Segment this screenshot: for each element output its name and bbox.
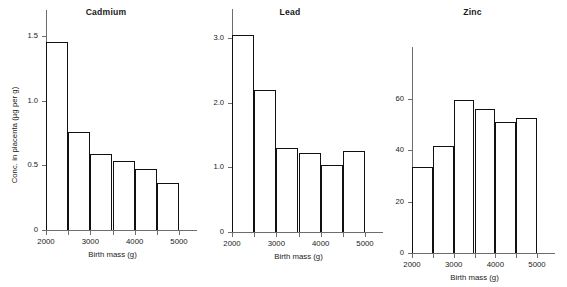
x-axis-tick [343, 233, 344, 237]
histogram-bar [433, 146, 454, 253]
y-axis-tick [408, 150, 412, 151]
x-axis-tick [475, 254, 476, 258]
y-axis-tick-label: 20 [370, 197, 404, 206]
x-axis-tick [516, 254, 517, 258]
x-axis-tick [537, 254, 538, 258]
x-axis-title: Birth mass (g) [392, 273, 557, 282]
x-axis-tick [157, 231, 158, 235]
panel-title-zinc: Zinc [378, 7, 567, 17]
x-axis-tick [254, 233, 255, 237]
histogram-bar [254, 90, 276, 232]
y-axis-tick-label: 60 [370, 94, 404, 103]
histogram-bar [157, 183, 179, 230]
x-axis-tick [365, 233, 366, 237]
x-axis-tick [68, 231, 69, 235]
histogram-bar [135, 169, 157, 230]
histogram-bar [454, 100, 475, 253]
histogram-bar [495, 122, 516, 253]
y-axis-tick [408, 99, 412, 100]
x-axis-title: Birth mass (g) [26, 250, 199, 259]
y-axis-tick-label: 2.0 [190, 98, 224, 107]
x-axis-tick [90, 231, 91, 235]
y-axis-tick-label: 0 [190, 227, 224, 236]
x-axis-tick [276, 233, 277, 237]
x-axis-tick [321, 233, 322, 237]
histogram-bar [68, 132, 90, 230]
x-axis-tick-label: 4000 [306, 239, 336, 248]
x-axis-tick-label: 5000 [522, 260, 552, 269]
x-axis-tick [113, 231, 114, 235]
x-axis-tick [299, 233, 300, 237]
y-axis-tick-label: 0 [370, 248, 404, 257]
x-axis-tick-label: 2000 [397, 260, 427, 269]
histogram-bar [343, 151, 365, 232]
histogram-bar [475, 109, 496, 253]
panel-zinc: Zinc 02040602000300040005000Birth mass (… [378, 0, 567, 287]
histogram-bar [113, 161, 135, 230]
y-axis-tick-label: 1.0 [4, 96, 38, 105]
x-axis-tick [135, 231, 136, 235]
histogram-bar [232, 35, 254, 232]
x-axis-tick [433, 254, 434, 258]
histogram-bar [46, 42, 68, 230]
panel-cadmium: Cadmium 00.51.01.52000300040005000Birth … [0, 0, 190, 287]
x-axis-tick-label: 3000 [261, 239, 291, 248]
histogram-bar [90, 154, 112, 230]
panel-lead: Lead 01.02.03.02000300040005000Birth mas… [190, 0, 380, 287]
histogram-bar [516, 118, 537, 253]
x-axis-title: Birth mass (g) [212, 252, 385, 261]
histogram-bar [412, 167, 433, 253]
x-axis-tick-label: 5000 [350, 239, 380, 248]
histogram-bar [299, 153, 321, 232]
x-axis-tick-label: 3000 [75, 237, 105, 246]
x-axis-tick [495, 254, 496, 258]
y-axis-tick-label: 1.5 [4, 31, 38, 40]
x-axis-tick-label: 4000 [120, 237, 150, 246]
x-axis-tick [46, 231, 47, 235]
panel-title-lead: Lead [190, 7, 380, 17]
y-axis-tick-label: 0.5 [4, 160, 38, 169]
x-axis-tick [179, 231, 180, 235]
x-axis-tick [412, 254, 413, 258]
y-axis-tick [42, 36, 46, 37]
x-axis-tick [232, 233, 233, 237]
x-axis-tick-label: 2000 [217, 239, 247, 248]
y-axis-tick-label: 40 [370, 145, 404, 154]
panel-title-cadmium: Cadmium [0, 7, 190, 17]
y-axis-tick-label: 1.0 [190, 162, 224, 171]
histogram-bar [321, 165, 343, 232]
x-axis-tick [454, 254, 455, 258]
y-axis-tick-label: 0 [4, 225, 38, 234]
histogram-bar [276, 148, 298, 232]
x-axis-tick-label: 3000 [439, 260, 469, 269]
y-axis-tick-label: 3.0 [190, 33, 224, 42]
x-axis-tick-label: 2000 [31, 237, 61, 246]
figure-canvas: Conc. in placenta (µg per g) Cadmium 00.… [0, 0, 567, 287]
x-axis-tick-label: 4000 [480, 260, 510, 269]
